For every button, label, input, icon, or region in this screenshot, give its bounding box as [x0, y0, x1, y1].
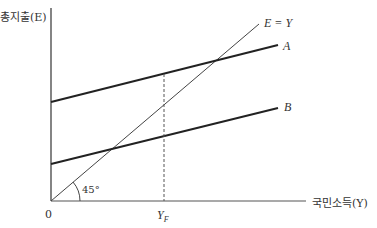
x-axis-label: 국민소득(Y) [312, 194, 368, 210]
line-a-label: A [283, 39, 290, 54]
line-a [51, 45, 278, 102]
yf-main: Y [157, 208, 164, 222]
line-e-equals-y [51, 24, 259, 201]
angle-arc-icon [73, 182, 80, 201]
yf-label: YF [157, 208, 169, 224]
angle-label: 45° [82, 184, 100, 195]
origin-label: 0 [45, 208, 52, 221]
line-b-label: B [284, 100, 291, 115]
y-axis-label: 총지출(E) [0, 8, 47, 24]
yf-subscript: F [164, 215, 169, 224]
line-e-equals-y-label: E = Y [264, 16, 292, 31]
